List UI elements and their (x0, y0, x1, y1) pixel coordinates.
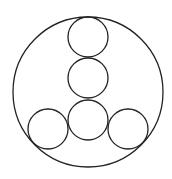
inner-circle-bottom-right (108, 109, 148, 149)
circles-diagram (0, 0, 172, 179)
inner-circle-middle (68, 58, 108, 98)
inner-circle-top (68, 17, 108, 57)
inner-circle-bottom-center (68, 100, 108, 140)
inner-circles-group (28, 17, 148, 149)
inner-circle-bottom-left (28, 109, 68, 149)
